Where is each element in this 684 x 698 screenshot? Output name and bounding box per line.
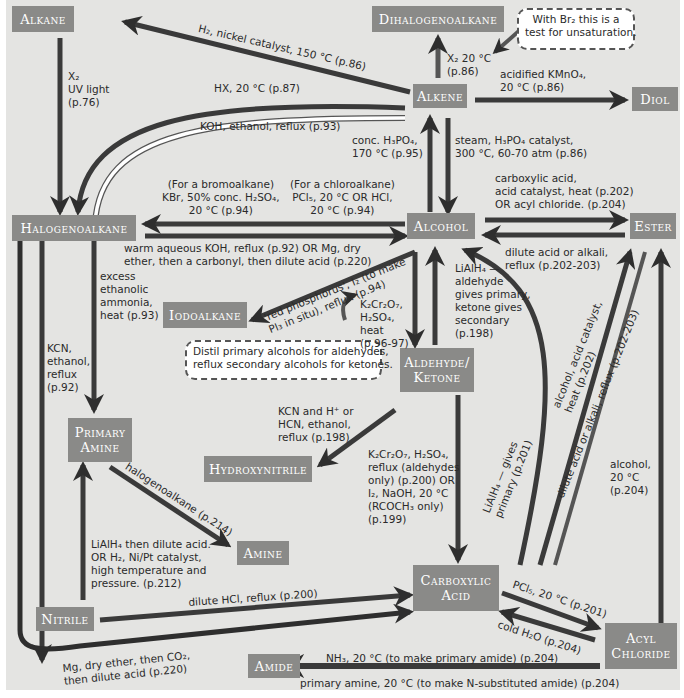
callout-bromine-test: With Br₂ this is a test for unsaturation… bbox=[517, 8, 635, 50]
node-hydroxynitrile: Hydroxynitrile bbox=[204, 456, 312, 482]
node-label: Diol bbox=[640, 92, 669, 107]
label-k2cr2o7: K₂Cr₂O₇, H₂SO₄, heat (p.96-97) bbox=[360, 298, 409, 350]
node-label: Alcohol bbox=[414, 219, 468, 234]
label-x2-20: X₂ 20 °C (p.86) bbox=[447, 52, 491, 78]
node-carboxylic-acid: CarboxylicAcid bbox=[413, 565, 499, 611]
node-diol: Diol bbox=[632, 87, 678, 111]
label-nh3-amide: NH₃, 20 °C (to make primary amide) (p.20… bbox=[326, 652, 558, 665]
label-carboxylic-ester: carboxylic acid, acid catalyst, heat (p.… bbox=[495, 172, 634, 211]
node-iodoalkane: Iodoalkane bbox=[163, 302, 247, 328]
label-alcohol-20: alcohol, 20 °C (p.204) bbox=[610, 458, 651, 497]
label-kmno4: acidified KMnO₄, 20 °C (p.86) bbox=[500, 68, 586, 94]
label-koh-ethanol: KOH, ethanol, reflux (p.93) bbox=[200, 120, 340, 133]
node-label: Hydroxynitrile bbox=[209, 462, 307, 477]
label-x2-uv: X₂ UV light (p.76) bbox=[68, 70, 109, 109]
callout-distil-note: Distil primary alcohols for aldehydes, r… bbox=[185, 340, 382, 380]
node-primary-amine: PrimaryAmine bbox=[68, 418, 132, 462]
label-lialh4-aldehyde: LiAlH₄ — aldehyde gives primary, ketone … bbox=[455, 262, 531, 340]
label-lialh4-nitrile: LiAlH₄ then dilute acid. OR H₂, Ni/Pt ca… bbox=[91, 538, 211, 590]
node-label: Chloride bbox=[611, 646, 670, 661]
node-label: Amide bbox=[255, 659, 293, 674]
node-amine: Amine bbox=[237, 541, 289, 565]
node-label: Dihalogenoalkane bbox=[379, 12, 497, 27]
node-alkene: Alkene bbox=[413, 84, 467, 108]
node-label: Alkane bbox=[20, 12, 66, 27]
node-label: Nitrile bbox=[41, 612, 88, 627]
label-conc-h3po4: conc. H₃PO₄, 170 °C (p.95) bbox=[352, 134, 423, 160]
node-label: Amine bbox=[80, 440, 119, 455]
node-nitrile: Nitrile bbox=[36, 607, 94, 631]
node-alkane: Alkane bbox=[12, 6, 74, 32]
node-label: Halogenoalkane bbox=[21, 221, 128, 236]
node-halogenoalkane: Halogenoalkane bbox=[12, 215, 136, 241]
node-aldehyde-ketone: Aldehyde/Ketone bbox=[400, 348, 474, 392]
label-excess-ammonia: excess ethanolic ammonia, heat (p.93) bbox=[100, 270, 159, 322]
node-label: Acid bbox=[441, 588, 470, 603]
node-label: Iodoalkane bbox=[169, 308, 241, 323]
node-dihalogenoalkane: Dihalogenoalkane bbox=[372, 6, 504, 32]
node-amide: Amide bbox=[248, 654, 300, 678]
node-label: Ketone bbox=[413, 370, 460, 385]
label-warm-koh: warm aqueous KOH, reflux (p.92) OR Mg, d… bbox=[124, 242, 371, 268]
label-steam: steam, H₃PO₄ catalyst, 300 °C, 60-70 atm… bbox=[455, 134, 587, 160]
node-ester: Ester bbox=[630, 213, 676, 239]
node-label: Ester bbox=[634, 219, 672, 234]
label-kcn-hcn: KCN and H⁺ or HCN, ethanol, reflux (p.19… bbox=[278, 405, 353, 444]
label-primary-amine-amide: primary amine, 20 °C (to make N-substitu… bbox=[300, 677, 619, 690]
label-k2cr2o7-oxidation: K₂Cr₂O₇, H₂SO₄, reflux (aldehydes only) … bbox=[368, 448, 459, 526]
node-label: Amine bbox=[243, 546, 282, 561]
label-bromoalkane: (For a bromoalkane) KBr, 50% conc. H₂SO₄… bbox=[162, 178, 280, 217]
label-chloroalkane: (For a chloroalkane) PCl₅, 20 °C OR HCl,… bbox=[290, 178, 395, 217]
node-label: Primary bbox=[75, 425, 126, 440]
node-label: Acyl bbox=[626, 631, 656, 646]
node-label: Alkene bbox=[417, 89, 463, 104]
node-acyl-chloride: AcylChloride bbox=[605, 623, 677, 669]
label-hx: HX, 20 °C (p.87) bbox=[214, 82, 300, 95]
label-kcn-ethanol: KCN, ethanol, reflux (p.92) bbox=[47, 342, 90, 394]
node-alcohol: Alcohol bbox=[407, 213, 475, 239]
node-label: Carboxylic bbox=[421, 573, 492, 588]
node-label: Aldehyde/ bbox=[404, 355, 470, 370]
